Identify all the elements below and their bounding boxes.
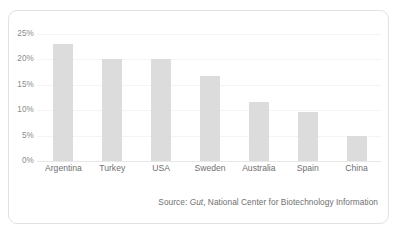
y-axis-tick-label: 5% — [9, 132, 34, 140]
bar — [102, 59, 122, 161]
bar — [200, 76, 220, 161]
source-journal-name: Gut — [190, 197, 204, 207]
y-axis-tick-label: 20% — [9, 55, 34, 63]
x-axis-tick-label: Turkey — [88, 164, 137, 173]
source-caption: Source: Gut, National Center for Biotech… — [158, 197, 378, 207]
x-axis-baseline — [37, 161, 381, 162]
x-axis-tick-label: Australia — [234, 164, 283, 173]
x-axis-tick-label: Spain — [283, 164, 332, 173]
source-suffix: , National Center for Biotechnology Info… — [203, 197, 378, 207]
x-axis-tick-label: USA — [137, 164, 186, 173]
bar — [249, 102, 269, 161]
bar — [53, 44, 73, 161]
y-axis-tick-label: 15% — [9, 81, 34, 89]
x-axis-tick-label: Sweden — [186, 164, 235, 173]
y-axis-tick-label: 0% — [9, 157, 34, 165]
y-axis-tick-label: 10% — [9, 106, 34, 114]
bar — [151, 59, 171, 161]
bar-chart-plot-area: 0%5%10%15%20%25% ArgentinaTurkeyUSASwede… — [9, 11, 390, 225]
bar — [347, 136, 367, 161]
gridline — [37, 34, 381, 35]
bar — [298, 112, 318, 161]
y-axis-tick-label: 25% — [9, 30, 34, 38]
gridline — [37, 59, 381, 60]
x-axis-tick-label: China — [332, 164, 381, 173]
source-prefix: Source: — [158, 197, 189, 207]
x-axis-tick-label: Argentina — [39, 164, 88, 173]
chart-card: 0%5%10%15%20%25% ArgentinaTurkeyUSASwede… — [8, 10, 389, 224]
